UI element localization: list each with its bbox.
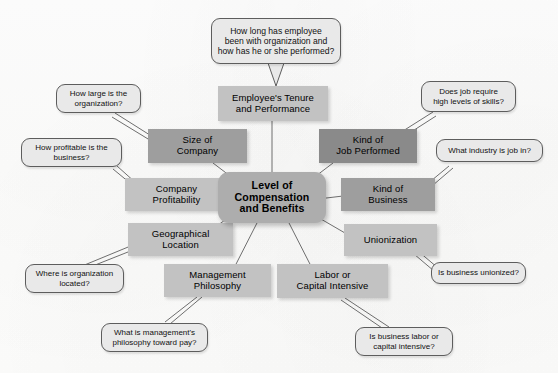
callout-line-2: high levels of skills? [433, 97, 504, 107]
callout-profitability-question[interactable]: How profitable is the business? [21, 138, 122, 167]
callout-line-2: philosophy toward pay? [112, 338, 196, 348]
pointer-phil-a [165, 297, 197, 322]
pointer-int-a [345, 298, 389, 327]
callout-line-2: business? [35, 153, 107, 163]
node-company-profitability[interactable]: Company Profitability [125, 178, 228, 211]
node-line-2: and Performance [232, 104, 314, 115]
callout-line-1: How long has employee [218, 26, 335, 36]
node-labor-or-capital-intensive[interactable]: Labor or Capital Intensive [277, 264, 388, 298]
callout-line-1: What is management's [112, 328, 196, 338]
callout-line-2: organization? [70, 99, 127, 109]
callout-line-1: How profitable is the [35, 143, 107, 153]
callout-line-2: capital intensive? [369, 342, 438, 352]
node-line-2: Company [177, 146, 218, 157]
node-management-philosophy[interactable]: Management Philosophy [164, 264, 271, 297]
pointer-size-b [112, 117, 153, 142]
callout-skills-question[interactable]: Does job require high levels of skills? [421, 81, 516, 112]
node-kind-of-job-performed[interactable]: Kind of Job Performed [319, 129, 417, 163]
node-line-1: Unionization [364, 235, 417, 246]
callout-line-1: What industry is job in? [448, 146, 531, 156]
node-kind-of-business[interactable]: Kind of Business [341, 178, 435, 211]
node-line-2: Job Performed [336, 146, 400, 157]
diagram-canvas: Employee's Tenure and Performance Size o… [0, 0, 558, 373]
node-line-1: Geographical [152, 229, 210, 240]
node-unionization[interactable]: Unionization [344, 224, 437, 256]
node-line-2: Location [152, 240, 210, 251]
node-geographical-location[interactable]: Geographical Location [128, 223, 233, 256]
callout-line-2: been with organization and [218, 36, 335, 46]
node-employee-tenure[interactable]: Employee's Tenure and Performance [218, 86, 328, 121]
node-line-1: Company [153, 184, 201, 195]
center-line-3: and Benefits [235, 203, 310, 215]
callout-unionized-question[interactable]: Is business unionized? [431, 262, 526, 284]
callout-line-1: Is business unionized? [438, 268, 519, 278]
callout-line-1: Is business labor or [369, 332, 438, 342]
callout-line-1: How large is the [70, 89, 127, 99]
node-line-2: Business [368, 195, 407, 206]
callout-industry-question[interactable]: What industry is job in? [436, 139, 543, 162]
node-center-level-of-compensation[interactable]: Level of Compensation and Benefits [218, 172, 326, 223]
pointer-phil-b [170, 297, 202, 324]
node-line-1: Kind of [368, 184, 407, 195]
callout-line-1: Where is organization [36, 269, 113, 279]
callout-tail-tenure [268, 63, 284, 86]
callout-tenure-question[interactable]: How long has employee been with organiza… [211, 18, 341, 64]
node-line-1: Employee's Tenure [232, 93, 314, 104]
node-line-2: Profitability [153, 195, 201, 206]
callout-philosophy-question[interactable]: What is management's philosophy toward p… [101, 323, 208, 352]
callout-line-3: how has he or she performed? [218, 46, 335, 56]
center-line-1: Level of [235, 180, 310, 192]
node-line-2: Capital Intensive [297, 281, 369, 292]
node-line-1: Management [189, 270, 245, 281]
callout-intensive-question[interactable]: Is business labor or capital intensive? [355, 327, 453, 356]
callout-size-question[interactable]: How large is the organization? [56, 84, 141, 113]
callout-line-2: located? [36, 279, 113, 289]
callout-line-1: Does job require [433, 87, 504, 97]
pointer-int-b [341, 300, 385, 330]
node-size-of-company[interactable]: Size of Company [148, 129, 247, 163]
callout-location-question[interactable]: Where is organization located? [25, 264, 124, 293]
node-line-2: Philosophy [189, 281, 245, 292]
